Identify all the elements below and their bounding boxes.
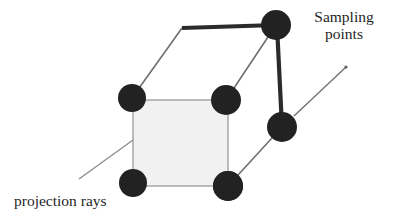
sampling-point-bottom-front-right — [213, 171, 243, 201]
sampling-point-top-back-right — [118, 84, 146, 112]
projection-rays-label: projection rays — [14, 192, 107, 209]
sampling-points-leader-line — [294, 67, 346, 116]
cube-front-face — [133, 100, 228, 186]
figure-root: Sampling points projection rays — [0, 0, 394, 224]
sampling-point-top-front-left — [211, 85, 241, 115]
sampling-points-label-line-1: Sampling — [296, 8, 392, 25]
sampling-points-leader-tip — [344, 65, 347, 68]
sampling-point-bottom-back-right — [119, 169, 147, 197]
sampling-points-label-line-2: points — [296, 25, 392, 42]
edge-right-back — [277, 26, 282, 127]
sampling-point-top-front-right — [267, 112, 297, 142]
sampling-point-top-back-left — [261, 10, 291, 40]
sampling-points-label: Sampling points — [296, 8, 392, 43]
